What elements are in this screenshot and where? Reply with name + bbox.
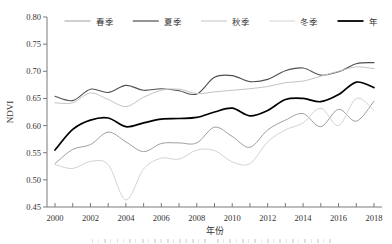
legend-label-winter: 冬季 <box>300 17 318 27</box>
x-tick-label: 2012 <box>259 213 276 223</box>
x-tick-label: 2014 <box>295 213 313 223</box>
y-tick-label: 0.70 <box>26 66 41 76</box>
x-tick-label: 2016 <box>330 213 347 223</box>
y-tick-label: 0.60 <box>26 121 41 131</box>
y-tick-label: 0.55 <box>26 148 41 158</box>
legend-item-spring: 春季 <box>65 17 114 27</box>
series-line-winter <box>55 98 374 200</box>
y-tick-label: 0.45 <box>26 202 41 212</box>
legend-label-autumn: 秋季 <box>232 17 250 27</box>
x-tick-label: 2006 <box>153 213 170 223</box>
ndvi-trend-figure: 0.800.750.700.650.600.550.500.4520002002… <box>0 0 392 244</box>
legend-label-annual: 年 <box>369 17 378 27</box>
legend-item-autumn: 秋季 <box>201 17 250 27</box>
x-tick-label: 2002 <box>82 213 99 223</box>
series-line-spring <box>55 101 374 164</box>
x-tick-label: 2010 <box>224 213 241 223</box>
ndvi-line-chart: 0.800.750.700.650.600.550.500.4520002002… <box>0 0 392 244</box>
x-tick-label: 2018 <box>365 213 382 223</box>
legend-item-winter: 冬季 <box>269 17 318 27</box>
legend-label-spring: 春季 <box>96 17 114 27</box>
x-tick-label: 2000 <box>47 213 64 223</box>
y-tick-label: 0.65 <box>26 93 41 103</box>
legend-label-summer: 夏季 <box>164 17 182 27</box>
x-tick-label: 2004 <box>117 213 135 223</box>
y-tick-label: 0.50 <box>26 175 41 185</box>
cropped-caption-top-edge <box>92 239 332 243</box>
y-tick-label: 0.80 <box>26 12 41 22</box>
x-tick-label: 2008 <box>188 213 205 223</box>
x-axis-title: 年份 <box>206 225 224 236</box>
y-axis-title: NDVI <box>5 101 15 124</box>
legend-item-annual: 年 <box>338 17 378 27</box>
series-line-summer <box>55 63 374 101</box>
legend-item-summer: 夏季 <box>133 17 182 27</box>
y-tick-label: 0.75 <box>26 39 41 49</box>
